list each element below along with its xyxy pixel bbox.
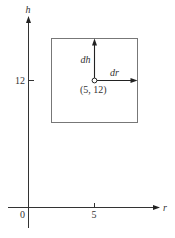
r-tick-5: 5 [92,203,97,220]
dr-vector: dr [97,67,138,83]
point-marker-icon [92,78,97,83]
dh-vector: dh [81,39,98,79]
point-label: (5, 12) [80,84,107,96]
diagram-canvas: h r 0 5 12 dh dr (5, 12) [0,0,175,238]
r-axis: r [8,202,167,213]
r-axis-label: r [163,202,167,213]
dh-arrow-icon [92,39,97,46]
r-axis-arrow-icon [153,205,160,210]
h-axis-label: h [26,4,31,15]
h-tick-12: 12 [15,75,34,86]
dh-label: dh [81,54,91,65]
r-tick-label: 5 [92,209,97,220]
origin-label: 0 [20,209,25,220]
dr-label: dr [110,67,119,78]
h-tick-label: 12 [15,75,25,86]
h-axis: h [26,4,32,228]
dr-arrow-icon [131,78,138,83]
h-axis-arrow-icon [26,16,31,23]
